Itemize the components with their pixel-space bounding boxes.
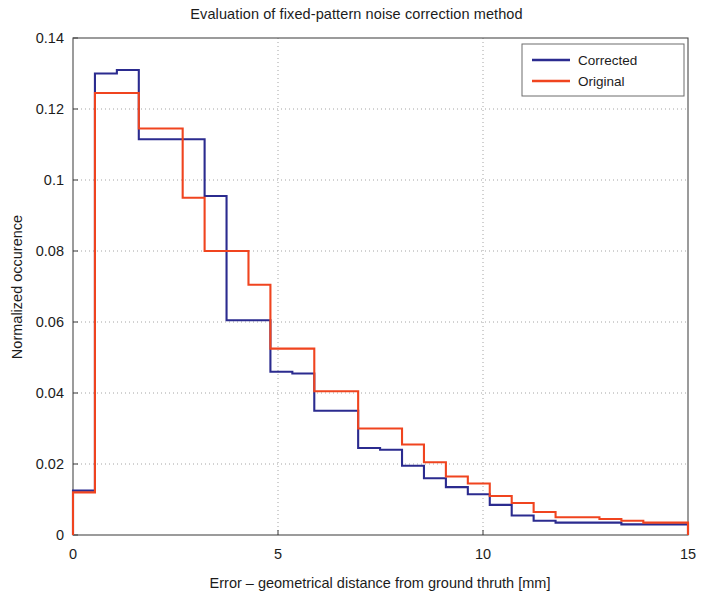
y-tick-label: 0.06 [36,314,64,330]
grid-lines [73,38,688,535]
chart-legend[interactable]: CorrectedOriginal [522,44,684,96]
series-line-corrected [73,70,688,535]
y-tick-label: 0.14 [36,30,64,46]
y-tick-label: 0.04 [36,385,64,401]
x-tick-label: 15 [680,546,696,562]
plot-frame [73,38,688,535]
y-tick-label: 0.08 [36,243,64,259]
x-tick-label: 0 [69,546,77,562]
x-axis-title: Error – geometrical distance from ground… [210,575,551,591]
figure-container: Evaluation of fixed-pattern noise correc… [0,0,713,602]
y-tick-label: 0 [56,527,64,543]
x-tick-label: 10 [475,546,491,562]
y-tick-label: 0.1 [44,172,64,188]
legend-label-corrected: Corrected [578,53,637,68]
series-line-original [73,93,688,535]
y-tick-label: 0.02 [36,456,64,472]
legend-label-original: Original [578,74,625,89]
data-series [73,70,688,535]
tick-labels: 00.020.040.060.080.10.120.14051015 [36,30,696,562]
y-axis-title: Normalized occurence [9,215,25,359]
axis-ticks [73,38,688,535]
y-tick-label: 0.12 [36,101,64,117]
chart-plot: 00.020.040.060.080.10.120.14051015 Error… [0,0,713,602]
x-tick-label: 5 [274,546,282,562]
